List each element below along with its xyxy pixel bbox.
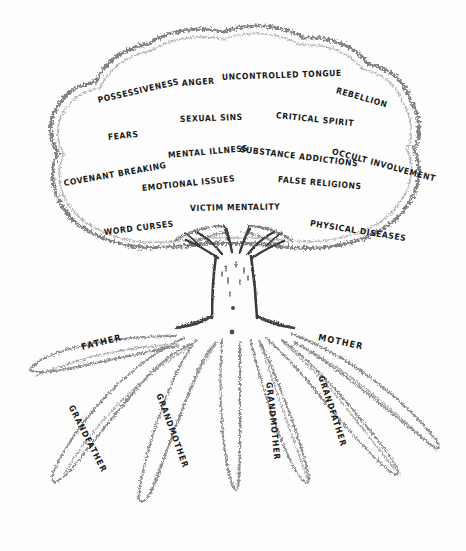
root-shapes — [30, 334, 439, 502]
generational-tree-diagram: POSSESSIVENESS ANGER UNCONTROLLED TONGUE… — [0, 0, 466, 551]
ground-line-art — [30, 317, 440, 330]
cloud-label: SEXUAL SINS — [180, 114, 243, 125]
diagram-artwork — [0, 0, 466, 551]
cloud-label: VICTIM MENTALITY — [190, 203, 281, 213]
cloud-label: ANGER — [182, 78, 215, 89]
foliage-cloud-outline — [51, 26, 419, 249]
